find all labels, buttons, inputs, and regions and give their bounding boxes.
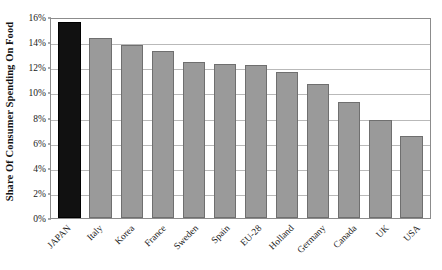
plot-area xyxy=(50,18,431,219)
bar-slot xyxy=(334,19,365,218)
x-axis-tick-labels: JAPANItalyKoreaFranceSwedenSpainEU-28Hol… xyxy=(50,219,431,270)
bar[interactable] xyxy=(245,65,267,218)
x-tick-label: UK xyxy=(374,223,391,240)
x-tick-label: USA xyxy=(402,223,423,244)
x-tick-label: Italy xyxy=(85,223,104,242)
bars-layer xyxy=(51,19,430,218)
y-axis-title: Share Of Consumer Spending On Food xyxy=(0,0,20,222)
bar-slot xyxy=(147,19,178,218)
bar-slot xyxy=(116,19,147,218)
x-tick-label: Korea xyxy=(113,223,136,246)
bar[interactable] xyxy=(214,64,236,218)
bar[interactable] xyxy=(338,102,360,218)
x-tick-label: EU-28 xyxy=(238,223,263,248)
x-label-slot: Germany xyxy=(304,219,336,270)
bar[interactable] xyxy=(307,84,329,218)
x-tick-label: Canada xyxy=(331,223,358,250)
x-label-slot: Spain xyxy=(209,219,241,270)
bar-slot xyxy=(209,19,240,218)
y-tick-label: 16% xyxy=(29,13,46,23)
bar[interactable] xyxy=(400,136,422,218)
x-label-slot: Korea xyxy=(114,219,146,270)
x-label-slot: JAPAN xyxy=(50,219,82,270)
bar-slot xyxy=(240,19,271,218)
bar-slot xyxy=(54,19,85,218)
bar-slot xyxy=(365,19,396,218)
x-tick-label: JAPAN xyxy=(46,223,73,250)
y-tick-label: 6% xyxy=(33,139,46,149)
y-tick-label: 2% xyxy=(33,189,46,199)
x-label-slot: UK xyxy=(368,219,400,270)
bar-slot xyxy=(178,19,209,218)
bar[interactable] xyxy=(183,62,205,218)
bar-slot xyxy=(396,19,427,218)
bar[interactable] xyxy=(89,38,111,218)
bar[interactable] xyxy=(369,120,391,218)
x-tick-label: Spain xyxy=(209,223,231,245)
bar-chart: Share Of Consumer Spending On Food 0%2%4… xyxy=(0,0,442,270)
bar-slot xyxy=(272,19,303,218)
x-tick-label: France xyxy=(143,223,168,248)
bar-slot xyxy=(303,19,334,218)
bar[interactable] xyxy=(58,22,80,218)
y-tick-label: 0% xyxy=(33,214,46,224)
bar-slot xyxy=(85,19,116,218)
y-axis-tick-labels: 0%2%4%6%8%10%12%14%16% xyxy=(18,13,48,225)
y-tick-label: 10% xyxy=(29,88,46,98)
y-tick-label: 8% xyxy=(33,114,46,124)
y-axis-title-text: Share Of Consumer Spending On Food xyxy=(5,21,16,201)
x-label-slot: Canada xyxy=(336,219,368,270)
bar[interactable] xyxy=(121,45,143,218)
x-label-slot: Sweden xyxy=(177,219,209,270)
bar[interactable] xyxy=(276,72,298,218)
y-tick-label: 14% xyxy=(29,38,46,48)
x-label-slot: Italy xyxy=(82,219,114,270)
y-tick-label: 4% xyxy=(33,164,46,174)
x-label-slot: USA xyxy=(399,219,431,270)
bar[interactable] xyxy=(152,51,174,218)
y-tick-label: 12% xyxy=(29,63,46,73)
